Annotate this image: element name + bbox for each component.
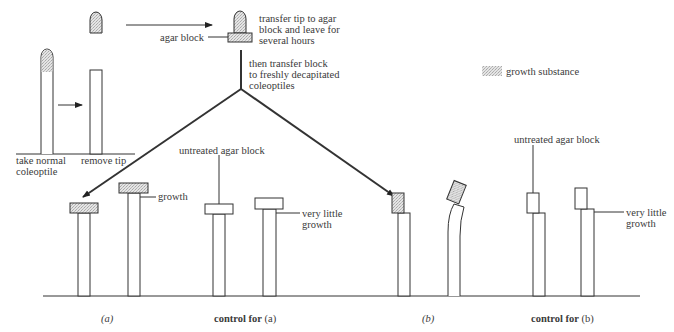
a-stem-1 bbox=[78, 213, 90, 296]
legend-label: growth substance bbox=[506, 66, 579, 77]
label-agar-block: agar block bbox=[160, 32, 204, 43]
label-remove-tip: remove tip bbox=[81, 155, 126, 166]
b-stem-1 bbox=[398, 213, 410, 296]
a-block-1 bbox=[70, 203, 98, 213]
ca-stem-1 bbox=[213, 214, 225, 296]
tip-on-agar bbox=[234, 11, 246, 33]
agar-block bbox=[228, 33, 252, 42]
b-block-1 bbox=[392, 193, 404, 213]
coleoptile-tip-stipple bbox=[42, 50, 53, 72]
cb-stem-2 bbox=[581, 209, 594, 296]
ca-stem-2 bbox=[263, 209, 276, 296]
caption-b: (b) bbox=[422, 313, 434, 324]
label-take-normal: take normalcoleoptile bbox=[16, 155, 66, 177]
label-transfer-block: then transfer blockto freshly decapitate… bbox=[249, 58, 339, 91]
label-very-little-a: very littlegrowth bbox=[302, 208, 343, 230]
diagram-canvas bbox=[0, 0, 674, 332]
label-untreated-b: untreated agar block bbox=[514, 134, 600, 145]
b-bent-stem bbox=[448, 204, 464, 296]
label-untreated-a: untreated agar block bbox=[179, 145, 265, 156]
ca-block-2 bbox=[255, 198, 283, 209]
caption-control-b: control for (b) bbox=[531, 313, 594, 324]
decapitated-coleoptile bbox=[90, 70, 102, 154]
arrow-to-b bbox=[241, 89, 394, 196]
removed-tip bbox=[90, 12, 102, 33]
cb-block-2 bbox=[575, 188, 587, 209]
legend-swatch bbox=[482, 66, 502, 76]
label-growth: growth bbox=[158, 191, 188, 202]
a-block-2 bbox=[119, 183, 148, 193]
cb-stem-1 bbox=[533, 213, 545, 296]
ca-block-1 bbox=[205, 204, 233, 214]
a-stem-2 bbox=[128, 193, 140, 296]
label-transfer-tip: transfer tip to agarblock and leave fors… bbox=[259, 13, 340, 46]
cb-block-1 bbox=[527, 193, 539, 213]
caption-control-a: control for (a) bbox=[214, 313, 276, 324]
caption-a: (a) bbox=[101, 313, 113, 324]
b-block-2 bbox=[447, 180, 467, 203]
arrow-to-a bbox=[83, 89, 241, 197]
label-very-little-b: very littlegrowth bbox=[626, 207, 667, 229]
